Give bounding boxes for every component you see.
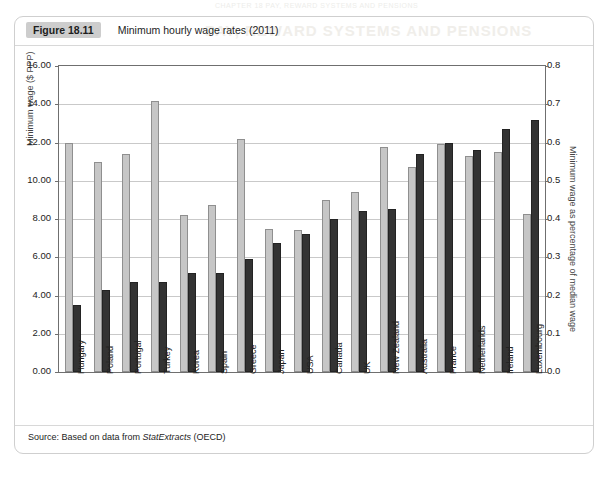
bar-minimum-wage-ppp: [408, 167, 416, 372]
y-axis-right-tick-label: 0.5: [547, 174, 573, 185]
bar-minimum-wage-ppp: [465, 156, 473, 372]
x-axis-label: Poland: [105, 346, 115, 374]
x-axis-label: USA: [305, 355, 315, 374]
bar-minimum-wage-ppp: [151, 101, 159, 372]
x-axis-label: UK: [362, 361, 372, 374]
x-axis-labels: HungaryPolandPortugalTurkeyKoreaSpainGre…: [58, 372, 544, 424]
x-axis-label: New Zealand: [391, 321, 401, 374]
axis-tick-mark: [545, 66, 549, 67]
x-axis-label: Australia: [419, 339, 429, 374]
y-axis-right-tick-label: 0.0: [547, 365, 573, 376]
bar-group: [180, 66, 196, 372]
bar-minimum-wage-ppp: [122, 154, 130, 372]
y-axis-left-tick-label: 10.00: [15, 174, 51, 185]
bar-minimum-wage-ppp: [208, 205, 216, 372]
y-axis-left-tick-label: 0.00: [15, 365, 51, 376]
bar-minimum-wage-ppp: [523, 214, 531, 372]
y-axis-right-tick-label: 0.2: [547, 289, 573, 300]
y-axis-left-tick-label: 16.00: [15, 59, 51, 70]
x-axis-label: Korea: [191, 350, 201, 374]
bar-group: [265, 66, 281, 372]
y-axis-left-tick-label: 12.00: [15, 136, 51, 147]
x-axis-label: Portugal: [133, 340, 143, 374]
bar-minimum-wage-ppp: [265, 229, 273, 372]
x-axis-label: Ireland: [505, 346, 515, 374]
y-axis-right-tick-label: 0.8: [547, 59, 573, 70]
chart-area: Minimum wage ($ PPP) Minimum wage as per…: [15, 46, 593, 424]
axis-tick-mark: [545, 334, 549, 335]
bar-group: [494, 66, 510, 372]
y-axis-right-tick-label: 0.4: [547, 212, 573, 223]
x-axis-label: Japan: [276, 349, 286, 374]
bar-minimum-wage-ppp: [94, 162, 102, 372]
bar-minimum-wage-ppp: [380, 147, 388, 372]
y-axis-left-tick-label: 4.00: [15, 289, 51, 300]
bar-minimum-wage-ppp: [294, 230, 302, 372]
x-axis-label: Luxembourg: [534, 324, 544, 374]
x-axis-label: Canada: [334, 342, 344, 374]
bar-group: [65, 66, 81, 372]
bar-minimum-wage-ppp: [437, 144, 445, 372]
axis-tick-mark: [545, 257, 549, 258]
source-prefix: Source: Based on data from: [28, 432, 143, 442]
bar-group: [408, 66, 424, 372]
source-suffix: (OECD): [191, 432, 226, 442]
x-axis-label: Turkey: [162, 347, 172, 374]
x-axis-label: Netherlands: [477, 325, 487, 374]
bar-group: [351, 66, 367, 372]
axis-tick-mark: [545, 219, 549, 220]
plot-area: [58, 65, 546, 373]
figure-header: Figure 18.11 Minimum hourly wage rates (…: [15, 17, 593, 43]
bar-percentage-of-median-wage: [302, 234, 310, 372]
y-axis-right-tick-label: 0.6: [547, 136, 573, 147]
y-axis-right-tick-label: 0.7: [547, 97, 573, 108]
y-axis-left-tick-label: 2.00: [15, 327, 51, 338]
y-axis-left-tick-label: 6.00: [15, 250, 51, 261]
bar-group: [437, 66, 453, 372]
bar-minimum-wage-ppp: [180, 215, 188, 372]
figure-number-badge: Figure 18.11: [26, 22, 101, 39]
bar-minimum-wage-ppp: [65, 143, 73, 373]
bar-minimum-wage-ppp: [237, 139, 245, 372]
axis-tick-mark: [545, 296, 549, 297]
axis-tick-mark: [545, 104, 549, 105]
axis-tick-mark: [545, 181, 549, 182]
bar-group: [294, 66, 310, 372]
bar-minimum-wage-ppp: [322, 200, 330, 372]
x-axis-label: Greece: [248, 344, 258, 374]
bar-group: [122, 66, 138, 372]
figure-page: CHAPTER 18 PAY, REWARD SYSTEMS AND PENSI…: [0, 0, 616, 481]
x-axis-label: Hungary: [76, 340, 86, 374]
bar-percentage-of-median-wage: [359, 211, 367, 372]
source-note: Source: Based on data from StatExtracts …: [28, 432, 226, 442]
source-italic: StatExtracts: [143, 432, 192, 442]
bar-minimum-wage-ppp: [494, 152, 502, 372]
axis-tick-mark: [545, 372, 549, 373]
bar-percentage-of-median-wage: [445, 143, 453, 373]
x-axis-label: France: [448, 346, 458, 374]
y-axis-right-tick-label: 0.1: [547, 327, 573, 338]
bar-group: [322, 66, 338, 372]
bar-minimum-wage-ppp: [351, 192, 359, 372]
source-divider: [15, 425, 593, 426]
bar-groups: [59, 66, 545, 372]
bar-group: [208, 66, 224, 372]
bar-percentage-of-median-wage: [502, 129, 510, 372]
y-axis-left-tick-label: 8.00: [15, 212, 51, 223]
axis-tick-mark: [545, 143, 549, 144]
x-axis-label: Spain: [219, 351, 229, 374]
page-bleed-top-text: CHAPTER 18 PAY, REWARD SYSTEMS AND PENSI…: [215, 2, 615, 9]
y-axis-right-tick-label: 0.3: [547, 250, 573, 261]
bar-group: [237, 66, 253, 372]
y-axis-left-tick-label: 14.00: [15, 97, 51, 108]
bar-group: [151, 66, 167, 372]
bar-group: [94, 66, 110, 372]
figure-title: Minimum hourly wage rates (2011): [118, 24, 279, 36]
